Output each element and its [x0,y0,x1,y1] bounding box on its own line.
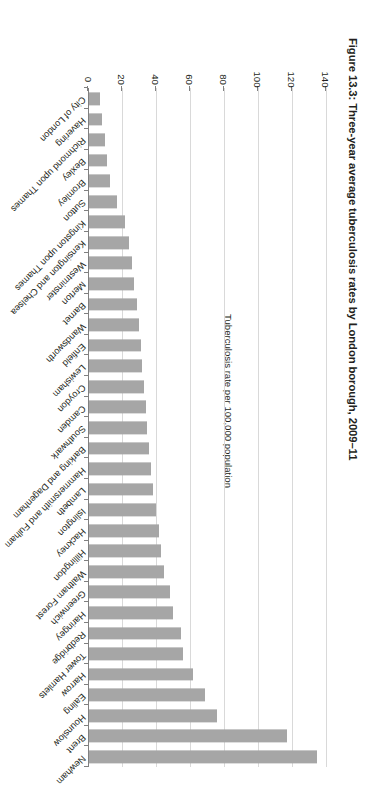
bar [88,133,105,146]
value-tick-label-100: 100 [243,74,273,85]
value-tick-label-40: 40 [141,74,171,85]
value-tick-label-0: 0 [73,74,103,85]
bar [88,113,102,126]
bar-row [88,274,326,295]
value-tick-mark-60 [189,86,190,91]
bar-row [88,294,326,315]
bar-row [88,561,326,582]
bar-row [88,746,326,767]
bar [88,648,183,661]
bar [88,730,287,743]
bar-chart: Tuberculosis rate per 100,000 population… [0,0,340,777]
bar-row [88,376,326,397]
bar-row [88,603,326,624]
bar-row [88,356,326,377]
bar-row [88,705,326,726]
bar [88,586,170,599]
bar-row [88,397,326,418]
bar-row [88,315,326,336]
bar-row [88,644,326,665]
bar [88,668,193,681]
bar [88,545,161,558]
bar-row [88,685,326,706]
bar [88,627,182,640]
bar-series [88,88,326,767]
bar [88,257,132,270]
plot-area [88,88,326,767]
bar-row [88,623,326,644]
bar [88,298,137,311]
bar-row [88,150,326,171]
bar [88,236,129,249]
bar-row [88,726,326,747]
bar [88,380,144,393]
value-tick-label-80: 80 [209,74,239,85]
bar [88,421,148,434]
bar [88,462,151,475]
bar-row [88,664,326,685]
bar [88,216,125,229]
bar [88,750,318,763]
bar [88,319,139,332]
bar [88,689,205,702]
bar-row [88,88,326,109]
value-tick-label-120: 120 [277,74,307,85]
bar [88,709,217,722]
category-axis-line [88,88,89,767]
bar-row [88,171,326,192]
bar [88,401,146,414]
category-axis-labels: NewhamBrentHounslowEalingHarrowTower Ham… [0,88,88,767]
bar [88,277,134,290]
gridline-140 [326,88,327,767]
bar-row [88,417,326,438]
value-tick-label-60: 60 [175,74,205,85]
bar [88,195,117,208]
bar-row [88,459,326,480]
bar-row [88,438,326,459]
figure-caption-rail: Figure 13.3: Three-year average tubercul… [340,0,370,777]
bar [88,92,100,105]
value-tick-label-20: 20 [107,74,137,85]
category-label: Newham [54,752,88,786]
bar [88,360,142,373]
bar [88,524,159,537]
bar-row [88,541,326,562]
bar-row [88,109,326,130]
value-tick-label-140: 140 [311,74,341,85]
bar-row [88,191,326,212]
bar-row [88,500,326,521]
value-axis-ticks: 020406080100120140 [88,45,326,85]
value-tick-mark-40 [155,86,156,91]
value-tick-mark-20 [121,86,122,91]
bar [88,483,153,496]
bar [88,606,173,619]
bar-row [88,212,326,233]
bar-row [88,232,326,253]
bar [88,154,107,167]
bar-row [88,253,326,274]
bar [88,504,156,517]
bar [88,442,149,455]
bar [88,175,110,188]
bar-row [88,130,326,151]
bar-row [88,520,326,541]
value-tick-mark-80 [223,86,224,91]
figure-caption: Figure 13.3: Three-year average tubercul… [342,38,364,748]
bar [88,565,165,578]
bar-row [88,582,326,603]
bar-row [88,479,326,500]
bar-row [88,335,326,356]
bar [88,339,141,352]
